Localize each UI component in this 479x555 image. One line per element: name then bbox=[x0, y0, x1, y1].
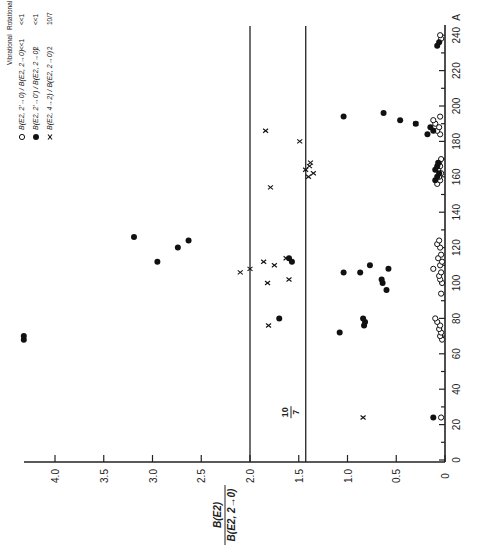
fraction-denominator: 7 bbox=[291, 410, 301, 415]
filled-circle-marker bbox=[424, 131, 430, 137]
filled-circle-marker bbox=[379, 276, 385, 282]
legend-header-rotational: Rotational bbox=[6, 0, 13, 30]
legend-entry-label: B(E2, 2'→0') / B(E2, 2→0) bbox=[32, 48, 40, 130]
ratio-tick-label: 3.0 bbox=[148, 469, 159, 483]
open-circle-marker bbox=[439, 270, 444, 275]
open-circle-marker bbox=[19, 134, 24, 139]
x-marker bbox=[307, 164, 312, 168]
x-marker bbox=[261, 260, 266, 264]
ratio-tick-label: 2.5 bbox=[196, 469, 207, 483]
axis-labels: 107B(E2)B(E2, 2→0) bbox=[212, 406, 301, 545]
filled-circle-marker bbox=[385, 266, 391, 272]
legend-header-vibrational: Vibrational bbox=[6, 34, 13, 65]
mass-tick-label: 220 bbox=[451, 62, 462, 79]
x-marker bbox=[238, 270, 243, 274]
open-circle-marker bbox=[431, 118, 436, 123]
legend-entry-label: B(E2, 2'→0) / B(E2, 2→0) bbox=[18, 50, 26, 130]
legend-entry-rotational: <<1 bbox=[18, 13, 25, 25]
ratio-axis-title-numerator: B(E2) bbox=[212, 501, 223, 528]
open-circle-marker bbox=[439, 252, 444, 257]
legend-entry-vibrational: 2 bbox=[46, 46, 53, 50]
mass-tick-label: 20 bbox=[451, 419, 462, 431]
x-marker bbox=[272, 263, 277, 267]
filled-circle-marker bbox=[427, 124, 433, 130]
x-marker bbox=[306, 175, 311, 179]
filled-circle-marker bbox=[154, 259, 160, 265]
x-marker bbox=[287, 277, 292, 281]
filled-circle-marker bbox=[33, 134, 39, 140]
ratio-axis-title: B(E2)B(E2, 2→0) bbox=[212, 485, 237, 545]
fraction-numerator: 10 bbox=[280, 407, 290, 417]
x-marker bbox=[263, 129, 268, 133]
legend-entry-rotational: 10/7 bbox=[46, 12, 53, 25]
x-marker bbox=[268, 185, 273, 189]
open-circle-marker bbox=[439, 291, 444, 296]
x-marker bbox=[297, 139, 302, 143]
ten-sevenths-label: 107 bbox=[280, 406, 301, 418]
filled-circle-marker bbox=[430, 415, 436, 421]
filled-circle-marker bbox=[341, 269, 347, 275]
filled-circle-marker bbox=[381, 110, 387, 116]
open-circle-marker bbox=[438, 33, 443, 38]
data-points bbox=[21, 33, 445, 421]
reference-lines bbox=[250, 26, 306, 462]
filled-circle-marker bbox=[131, 234, 137, 240]
filled-circle-marker bbox=[397, 117, 403, 123]
legend: VibrationalRotationalB(E2, 2'→0) / B(E2,… bbox=[6, 0, 54, 140]
legend-entry-label: B(E2, 4→2) / B(E2, 2→0) bbox=[46, 51, 54, 130]
ratio-axis-title-denominator: B(E2, 2→0) bbox=[226, 488, 237, 541]
filled-circle-marker bbox=[367, 262, 373, 268]
x-marker bbox=[265, 281, 270, 285]
x-marker bbox=[311, 171, 316, 175]
open-circle-marker bbox=[433, 316, 438, 321]
axes: 00.51.01.52.02.53.03.54.0020406080100120… bbox=[24, 14, 462, 483]
filled-circle-marker bbox=[186, 238, 192, 244]
mass-tick-label: 60 bbox=[451, 348, 462, 360]
ratio-tick-label: 0 bbox=[440, 473, 451, 479]
mass-tick-label: 240 bbox=[451, 26, 462, 43]
mass-tick-label: 0 bbox=[451, 457, 462, 463]
legend-entry-vibrational: 2 bbox=[32, 46, 39, 50]
legend-entry-vibrational: <<1 bbox=[18, 38, 25, 50]
mass-tick-label: 120 bbox=[451, 239, 462, 256]
x-marker bbox=[48, 135, 52, 140]
open-circle-marker bbox=[438, 114, 443, 119]
mass-tick-label: 100 bbox=[451, 274, 462, 291]
filled-circle-marker bbox=[357, 269, 363, 275]
mass-tick-label: 200 bbox=[451, 97, 462, 114]
filled-circle-marker bbox=[360, 315, 366, 321]
mass-tick-label: 140 bbox=[451, 203, 462, 220]
ratio-tick-label: 0.5 bbox=[391, 469, 402, 483]
ratio-tick-label: 2.0 bbox=[245, 469, 256, 483]
filled-circle-marker bbox=[175, 245, 181, 251]
open-circle-marker bbox=[439, 415, 444, 420]
open-circle-marker bbox=[431, 266, 436, 271]
filled-circle-marker bbox=[21, 333, 27, 339]
filled-circle-marker bbox=[341, 114, 347, 120]
ratio-tick-label: 4.0 bbox=[50, 469, 61, 483]
legend-entry-rotational: <<1 bbox=[32, 13, 39, 25]
open-circle-marker bbox=[437, 238, 442, 243]
mass-axis-label: A bbox=[451, 14, 462, 21]
ratio-tick-label: 1.5 bbox=[294, 469, 305, 483]
scatter-chart: 00.51.01.52.02.53.03.54.0020406080100120… bbox=[0, 0, 479, 555]
mass-tick-label: 160 bbox=[451, 168, 462, 185]
mass-tick-label: 40 bbox=[451, 383, 462, 395]
ratio-tick-label: 3.5 bbox=[99, 469, 110, 483]
x-marker bbox=[361, 416, 366, 420]
mass-tick-label: 80 bbox=[451, 312, 462, 324]
mass-tick-label: 180 bbox=[451, 133, 462, 150]
filled-circle-marker bbox=[337, 330, 343, 336]
filled-circle-marker bbox=[276, 315, 282, 321]
x-marker bbox=[308, 161, 313, 165]
legend-block: VibrationalRotationalB(E2, 2'→0) / B(E2,… bbox=[6, 0, 54, 140]
x-marker bbox=[266, 323, 271, 327]
ratio-tick-label: 1.0 bbox=[343, 469, 354, 483]
filled-circle-marker bbox=[436, 39, 442, 45]
filled-circle-marker bbox=[384, 287, 390, 293]
filled-circle-marker bbox=[435, 160, 441, 166]
